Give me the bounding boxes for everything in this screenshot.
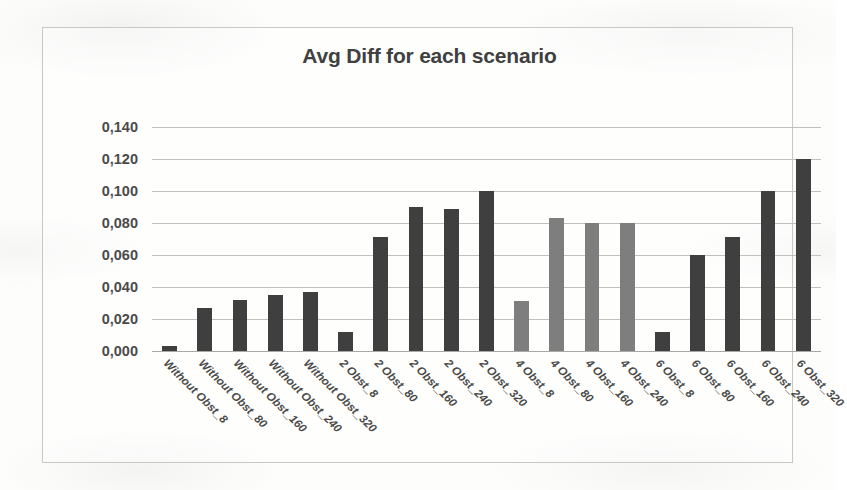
bar-slot	[293, 127, 328, 351]
bar-slot	[152, 127, 187, 351]
y-axis-tick-label: 0,140	[102, 119, 138, 135]
x-label-slot: 6 Obst_160	[715, 355, 750, 485]
bar-series	[152, 127, 821, 351]
bar[interactable]	[268, 295, 283, 351]
x-label-slot: 4 Obst_160	[574, 355, 609, 485]
bar[interactable]	[197, 308, 212, 351]
x-label-slot: Without Obst_80	[187, 355, 222, 485]
x-label-slot: 4 Obst_80	[539, 355, 574, 485]
bar-slot	[610, 127, 645, 351]
y-axis-tick-label: 0,020	[102, 311, 138, 327]
bar[interactable]	[725, 237, 740, 351]
y-axis-tick-label: 0,060	[102, 247, 138, 263]
x-label-slot: 2 Obst_320	[469, 355, 504, 485]
x-label-slot: Without Obst_320	[293, 355, 328, 485]
bar-slot	[539, 127, 574, 351]
bar[interactable]	[479, 191, 494, 351]
bar[interactable]	[338, 332, 353, 351]
x-label-slot: 2 Obst_240	[434, 355, 469, 485]
bar[interactable]	[303, 292, 318, 351]
y-axis-tick-label: 0,000	[102, 343, 138, 359]
x-label-slot: Without Obst_160	[222, 355, 257, 485]
bar[interactable]	[690, 255, 705, 351]
plot-area: 0,1400,1200,1000,0800,0600,0400,0200,000	[152, 127, 821, 351]
bar-slot	[187, 127, 222, 351]
x-label-slot: 2 Obst_8	[328, 355, 363, 485]
bar-slot	[222, 127, 257, 351]
bar-slot	[574, 127, 609, 351]
bar-slot	[398, 127, 433, 351]
chart-frame: Avg Diff for each scenario 0,1400,1200,1…	[42, 27, 793, 463]
bar-slot	[363, 127, 398, 351]
gridline	[152, 351, 821, 352]
bar-slot	[258, 127, 293, 351]
bar[interactable]	[796, 159, 811, 351]
bar[interactable]	[655, 332, 670, 351]
bar[interactable]	[620, 223, 635, 351]
y-axis-tick-label: 0,120	[102, 151, 138, 167]
y-axis-tick-label: 0,080	[102, 215, 138, 231]
x-label-slot: 2 Obst_80	[363, 355, 398, 485]
x-label-slot: 4 Obst_240	[610, 355, 645, 485]
x-axis-tick-label: 6 Obst_320	[795, 357, 847, 409]
x-label-slot: 6 Obst_8	[645, 355, 680, 485]
bar[interactable]	[162, 346, 177, 351]
bar-slot	[786, 127, 821, 351]
bar-slot	[680, 127, 715, 351]
bar-slot	[328, 127, 363, 351]
bar[interactable]	[233, 300, 248, 351]
bar[interactable]	[409, 207, 424, 351]
x-label-slot: Without Obst_8	[152, 355, 187, 485]
x-axis-tick-labels: Without Obst_8Without Obst_80Without Obs…	[152, 355, 821, 485]
x-label-slot: 6 Obst_80	[680, 355, 715, 485]
bar[interactable]	[585, 223, 600, 351]
bar[interactable]	[549, 218, 564, 351]
x-label-slot: 2 Obst_160	[398, 355, 433, 485]
bar[interactable]	[373, 237, 388, 351]
x-label-slot: 6 Obst_320	[786, 355, 821, 485]
y-axis-tick-label: 0,100	[102, 183, 138, 199]
x-label-slot: Without Obst_240	[258, 355, 293, 485]
bar-slot	[434, 127, 469, 351]
chart-title: Avg Diff for each scenario	[55, 44, 804, 68]
bar-slot	[645, 127, 680, 351]
bar-slot	[469, 127, 504, 351]
bar-slot	[715, 127, 750, 351]
y-axis-tick-label: 0,040	[102, 279, 138, 295]
bar[interactable]	[514, 301, 529, 351]
bar[interactable]	[444, 209, 459, 351]
bar-slot	[750, 127, 785, 351]
bar[interactable]	[761, 191, 776, 351]
bar-slot	[504, 127, 539, 351]
x-label-slot: 6 Obst_240	[750, 355, 785, 485]
x-label-slot: 4 Obst_8	[504, 355, 539, 485]
